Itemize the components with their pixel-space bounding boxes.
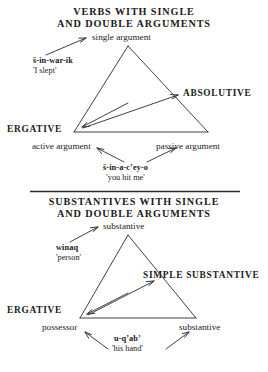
- verbs-triangle: [74, 46, 208, 132]
- verbs-double-example-arrow-left: [97, 148, 124, 162]
- substantives-triangle: [80, 235, 196, 318]
- verbs-single-example-arrow: [46, 38, 86, 55]
- diagram-line-art: [0, 0, 268, 372]
- substantives-double-example-arrow-right: [166, 332, 189, 349]
- substantives-double-example-arrow-left: [85, 332, 108, 349]
- figure-canvas: VERBS WITH SINGLE AND DOUBLE ARGUMENTS s…: [0, 0, 268, 372]
- verbs-absolutive-arrow: [83, 95, 178, 128]
- substantives-single-example-arrow: [70, 227, 98, 242]
- verbs-double-example-arrow-right: [147, 148, 176, 162]
- substantives-simple-arrow: [88, 281, 154, 315]
